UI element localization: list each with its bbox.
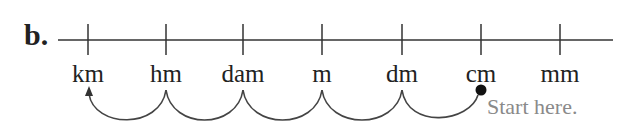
hop-arcs bbox=[89, 90, 478, 120]
unit-label-m: m bbox=[312, 60, 331, 88]
unit-label-hm: hm bbox=[150, 60, 182, 88]
unit-label-dam: dam bbox=[221, 60, 264, 88]
start-note: Start here. bbox=[487, 94, 577, 120]
unit-label-mm: mm bbox=[541, 60, 580, 88]
unit-label-dm: dm bbox=[386, 60, 418, 88]
unit-label-km: km bbox=[72, 60, 104, 88]
unit-label-cm: cm bbox=[466, 60, 497, 88]
